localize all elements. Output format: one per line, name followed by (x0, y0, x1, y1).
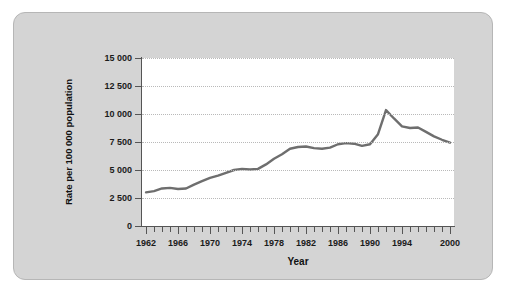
x-tick-mark (346, 227, 347, 232)
x-tick-mark (394, 227, 395, 232)
x-tick-mark (450, 227, 451, 234)
y-tick-mark (135, 58, 141, 59)
x-tick-mark (274, 227, 275, 234)
x-tick-mark (418, 227, 419, 232)
x-axis-title: Year (142, 256, 454, 267)
y-tick-label: 7 500 (109, 138, 132, 147)
x-tick-mark (170, 227, 171, 232)
x-tick-mark (322, 227, 323, 232)
x-tick-label: 1986 (328, 238, 348, 248)
x-tick-mark (362, 227, 363, 232)
y-tick-label: 10 000 (104, 110, 132, 119)
gridline (142, 86, 454, 87)
y-tick-mark (135, 114, 141, 115)
y-tick-mark (135, 142, 141, 143)
x-tick-mark (258, 227, 259, 232)
x-tick-mark (426, 227, 427, 232)
x-tick-mark (402, 227, 403, 234)
x-tick-mark (330, 227, 331, 232)
chart-panel: Rate per 100 000 population 02 5005 0007… (13, 12, 493, 280)
x-tick-mark (218, 227, 219, 232)
x-tick-mark (298, 227, 299, 232)
x-tick-mark (306, 227, 307, 234)
y-tick-label: 2 500 (109, 194, 132, 203)
y-tick-mark (135, 198, 141, 199)
x-tick-mark (178, 227, 179, 234)
x-tick-mark (210, 227, 211, 234)
y-tick-label: 15 000 (104, 54, 132, 63)
x-tick-label: 1994 (392, 238, 412, 248)
x-tick-label: 1978 (264, 238, 284, 248)
x-tick-mark (354, 227, 355, 232)
x-tick-mark (410, 227, 411, 232)
x-tick-label: 1962 (136, 238, 156, 248)
x-tick-label: 1966 (168, 238, 188, 248)
x-tick-mark (434, 227, 435, 232)
y-tick-label: 12 500 (104, 82, 132, 91)
x-tick-label: 1982 (296, 238, 316, 248)
x-tick-mark (162, 227, 163, 232)
gridline (142, 142, 454, 143)
gridline (142, 198, 454, 199)
x-tick-mark (202, 227, 203, 232)
x-tick-label: 2000 (440, 238, 460, 248)
x-tick-label: 1990 (360, 238, 380, 248)
y-tick-mark (135, 86, 141, 87)
x-tick-mark (282, 227, 283, 232)
y-tick-mark (135, 170, 141, 171)
x-tick-mark (242, 227, 243, 234)
gridline (142, 114, 454, 115)
y-tick-label: 5 000 (109, 166, 132, 175)
x-tick-mark (226, 227, 227, 232)
x-tick-label: 1970 (200, 238, 220, 248)
gridline (142, 58, 454, 59)
x-tick-mark (370, 227, 371, 234)
x-tick-mark (314, 227, 315, 232)
y-axis-tick-labels: 02 5005 0007 50010 00012 50015 000 (74, 13, 132, 279)
x-tick-mark (234, 227, 235, 232)
x-tick-mark (442, 227, 443, 232)
x-tick-mark (338, 227, 339, 234)
x-tick-mark (194, 227, 195, 232)
x-tick-mark (250, 227, 251, 232)
x-tick-mark (378, 227, 379, 232)
y-tick-mark (135, 226, 141, 227)
x-tick-mark (186, 227, 187, 232)
plot-area (142, 58, 454, 226)
x-tick-mark (290, 227, 291, 232)
x-tick-mark (146, 227, 147, 234)
x-tick-label: 1974 (232, 238, 252, 248)
x-tick-mark (266, 227, 267, 232)
x-tick-mark (386, 227, 387, 232)
y-tick-label: 0 (127, 222, 132, 231)
x-tick-mark (154, 227, 155, 232)
gridline (142, 170, 454, 171)
